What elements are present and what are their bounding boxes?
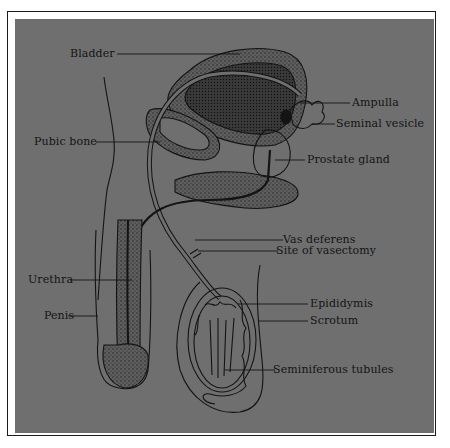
body-outline — [98, 77, 114, 300]
label-penis: Penis — [44, 310, 74, 322]
glans — [103, 344, 148, 388]
label-seminal-vesicle: Seminal vesicle — [336, 118, 424, 130]
label-urethra: Urethra — [28, 274, 73, 286]
label-epididymis: Epididymis — [310, 298, 373, 310]
label-bladder: Bladder — [70, 48, 115, 60]
anatomy-illustration — [0, 0, 450, 448]
label-seminiferous-tubules: Seminiferous tubules — [273, 364, 394, 376]
label-scrotum: Scrotum — [310, 315, 358, 327]
label-pubic-bone: Pubic bone — [34, 136, 97, 148]
ampulla-shape — [281, 110, 291, 124]
rectum — [175, 172, 298, 209]
label-prostate-gland: Prostate gland — [307, 154, 390, 166]
seminiferous-tubules-shape — [195, 302, 236, 378]
label-ampulla: Ampulla — [352, 97, 399, 109]
label-site-of-vasectomy: Site of vasectomy — [276, 245, 376, 257]
